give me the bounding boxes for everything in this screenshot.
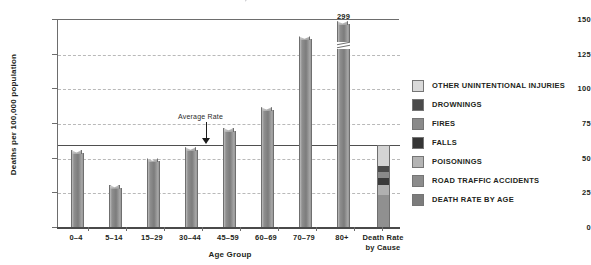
bar	[261, 110, 274, 228]
legend-label: OTHER UNINTENTIONAL INJURIES	[432, 81, 565, 90]
legend-label: DEATH RATE BY AGE	[432, 195, 514, 204]
legend-swatch	[412, 156, 424, 168]
legend-item[interactable]: POISONINGS	[412, 152, 565, 171]
bar	[185, 150, 198, 228]
legend: OTHER UNINTENTIONAL INJURIESDROWNINGSFIR…	[412, 76, 565, 209]
x-axis-tick-label-death-rate-by-cause: Death Rateby Cause	[355, 233, 411, 252]
bar	[223, 131, 236, 228]
x-axis-title: Age Group	[175, 250, 285, 259]
x-axis-tick-mark	[316, 227, 317, 231]
bar	[299, 39, 312, 228]
legend-label: DROWNINGS	[432, 100, 482, 109]
bar-top-cap	[223, 128, 234, 132]
bar-top-cap	[71, 150, 82, 154]
bar-top-cap	[261, 107, 272, 111]
legend-label: FALLS	[432, 138, 457, 147]
legend-swatch	[412, 175, 424, 187]
legend-item[interactable]: DROWNINGS	[412, 95, 565, 114]
bar	[109, 188, 122, 228]
bar	[147, 161, 160, 228]
x-axis-tick-label-line1: Death Rate	[355, 233, 411, 243]
legend-swatch	[412, 80, 424, 92]
legend-label: FIRES	[432, 119, 455, 128]
bar-top-cap	[337, 21, 348, 25]
legend-swatch	[412, 137, 424, 149]
axis-break-mark	[337, 42, 350, 49]
y-axis-title: Deaths per 100,000 population	[9, 35, 18, 195]
stacked-bar	[377, 145, 390, 228]
legend-item[interactable]: ROAD TRAFFIC ACCIDENTS	[412, 171, 565, 190]
legend-item[interactable]: OTHER UNINTENTIONAL INJURIES	[412, 76, 565, 95]
bar-top-cap	[185, 147, 196, 151]
stacked-bar-segment	[378, 146, 389, 166]
bar	[71, 153, 84, 228]
legend-label: POISONINGS	[432, 157, 482, 166]
legend-item[interactable]: FIRES	[412, 114, 565, 133]
legend-swatch	[412, 194, 424, 206]
stacked-bar-segment	[378, 185, 389, 194]
stacked-bar-segment	[378, 195, 389, 227]
x-axis-tick-mark	[126, 227, 127, 231]
x-axis-tick-mark	[278, 227, 279, 231]
stacked-bar-segment	[378, 178, 389, 185]
x-axis-line	[57, 227, 400, 229]
stacked-bar-segment	[378, 172, 389, 179]
bar-top-cap	[299, 36, 310, 40]
bar-top-cap	[109, 185, 120, 189]
x-axis-tick-mark	[88, 227, 89, 231]
bar-value-label: 299	[330, 12, 357, 21]
y-axis-tick-label: 125	[545, 50, 591, 59]
x-axis-tick-mark	[354, 227, 355, 231]
plot-area: 299	[57, 19, 399, 227]
legend-swatch	[412, 118, 424, 130]
x-axis-tick-label-line2: by Cause	[355, 243, 411, 253]
x-axis-tick-mark	[164, 227, 165, 231]
average-rate-annotation: Average Rate	[178, 113, 223, 120]
bar: 299	[337, 24, 350, 228]
chart-title: FIGURE 1 PATTERN OF DEATH FROM INJURY BY…	[14, 0, 266, 2]
legend-label: ROAD TRAFFIC ACCIDENTS	[432, 176, 539, 185]
average-rate-arrow-head	[202, 138, 210, 144]
y-axis-tick-label: 0	[545, 223, 591, 232]
x-axis-tick-mark	[382, 227, 383, 231]
legend-item[interactable]: FALLS	[412, 133, 565, 152]
legend-item[interactable]: DEATH RATE BY AGE	[412, 190, 565, 209]
x-axis-tick-mark	[240, 227, 241, 231]
y-axis-tick-label: 150	[545, 15, 591, 24]
x-axis-tick-mark	[202, 227, 203, 231]
legend-swatch	[412, 99, 424, 111]
